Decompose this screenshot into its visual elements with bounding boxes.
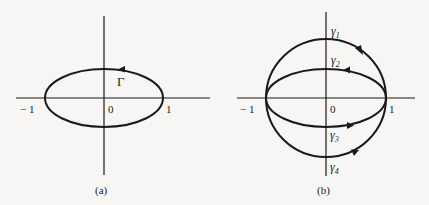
gamma4-arrow-icon [351,150,359,157]
label-origin: 0 [108,103,114,115]
label-gamma4: γ4 [330,160,339,176]
caption-b: (b) [317,184,330,197]
label-neg-one: − 1 [20,103,34,115]
panel-b: γ1 γ2 γ3 γ4 0 − 1 1 (b) [237,12,415,197]
gamma2-arrow-icon [343,67,350,74]
panel-a: Γ 0 − 1 1 (a) [16,16,210,197]
label-gamma3: γ3 [330,128,339,144]
caption-a: (a) [95,184,108,197]
label-gamma1: γ1 [331,24,340,40]
figure: Γ 0 − 1 1 (a) γ1 γ2 γ3 γ4 0 − 1 1 (b) [0,0,429,205]
label-pos-one: 1 [166,103,172,115]
label-origin: 0 [330,103,336,115]
label-pos-one: 1 [389,103,395,115]
label-neg-one: − 1 [240,103,254,115]
label-gamma: Γ [117,74,125,89]
direction-arrow-icon [118,66,125,73]
label-gamma2: γ2 [331,53,340,69]
